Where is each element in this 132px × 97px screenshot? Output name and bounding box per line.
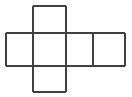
cube-net-figure (0, 0, 132, 97)
diagram-canvas (0, 0, 132, 97)
bottom-square (33, 66, 66, 92)
middle-left-square (6, 33, 33, 66)
middle-right-square (66, 33, 93, 66)
top-square (33, 6, 66, 33)
middle-center-square (33, 33, 66, 66)
middle-far-right-square (93, 33, 125, 66)
